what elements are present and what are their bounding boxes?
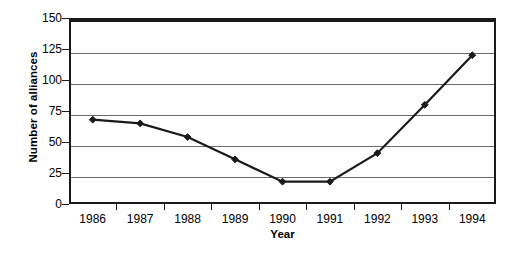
y-axis-tick-mark — [62, 18, 69, 19]
y-axis-tick-label: 0 — [26, 198, 62, 210]
y-axis-tick-label: 25 — [26, 167, 62, 179]
y-axis-tick-mark — [62, 80, 69, 81]
y-axis-tick-label: 125 — [26, 43, 62, 55]
x-axis-tick-label: 1994 — [444, 212, 500, 226]
gridline — [71, 84, 494, 85]
gridline — [71, 115, 494, 116]
y-axis-tick-mark — [62, 142, 69, 143]
chart-figure: Number of alliances 0255075100125150 Yea… — [0, 0, 519, 256]
y-axis-tick-label: 75 — [26, 105, 62, 117]
x-axis-title: Year — [69, 228, 496, 240]
gridline — [71, 177, 494, 178]
y-axis-tick-label: 50 — [26, 136, 62, 148]
gridline — [71, 146, 494, 147]
x-axis-tick-mark — [449, 204, 450, 210]
x-axis-tick-mark — [116, 204, 117, 210]
gridline — [71, 53, 494, 54]
x-axis-tick-mark — [306, 204, 307, 210]
plot-area — [69, 18, 496, 204]
y-axis-tick-mark — [62, 49, 69, 50]
y-axis-tick-mark — [62, 111, 69, 112]
y-axis-tick-label: 150 — [26, 12, 62, 24]
y-axis-tick-labels: 0255075100125150 — [26, 0, 62, 256]
y-axis-tick-mark — [62, 204, 69, 205]
x-axis-tick-mark — [354, 204, 355, 210]
x-axis-tick-mark — [259, 204, 260, 210]
gridlines — [71, 22, 494, 202]
y-axis-tick-label: 100 — [26, 74, 62, 86]
x-axis-tick-mark — [211, 204, 212, 210]
x-axis-tick-mark — [401, 204, 402, 210]
x-axis-tick-mark — [164, 204, 165, 210]
y-axis-tick-mark — [62, 173, 69, 174]
